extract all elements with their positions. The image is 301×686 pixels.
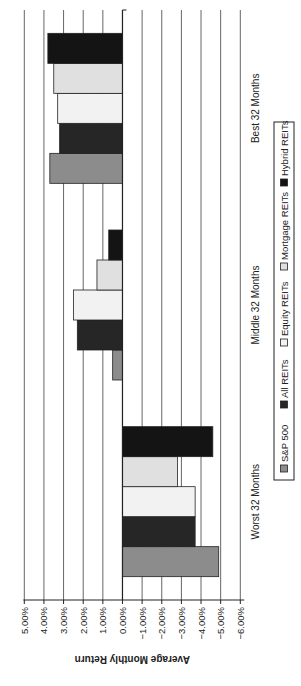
bar-all-reits-2 [60,123,123,153]
bar-s-p-500-0 [122,547,218,577]
bar-equity-reits-0 [122,487,195,517]
y-tick-label: 0.00% [117,606,128,633]
y-axis-title: Average Monthly Return [75,654,190,665]
bar-all-reits-1 [77,320,122,350]
bar-mortgage-reits-0 [122,457,177,487]
bar-hybrid-reits-2 [48,33,123,63]
bar-mortgage-reits-1 [97,260,123,290]
y-tick-label: −2.00% [156,606,167,639]
bar-hybrid-reits-0 [122,427,212,457]
y-tick-label: 2.00% [78,606,89,633]
bar-all-reits-0 [122,517,195,547]
legend-label: Hybrid REITs [279,120,290,176]
bar-hybrid-reits-1 [109,230,123,260]
category-label: Worst 32 Months [250,464,261,539]
chart-stage: 5.00%4.00%3.00%2.00%1.00%0.00%−1.00%−2.0… [0,0,301,686]
legend-swatch [281,465,288,472]
y-tick-label: −6.00% [235,606,246,639]
y-tick-label: −5.00% [215,606,226,639]
category-label: Best 32 Months [250,74,261,143]
y-tick-label: −4.00% [196,606,207,639]
bar-s-p-500-1 [113,350,123,380]
y-tick-label: 4.00% [38,606,49,633]
bar-equity-reits-1 [73,290,122,320]
legend-swatch [281,179,288,186]
legend-label: All REITs [279,359,290,398]
legend-label: Equity REITs [279,281,290,336]
y-tick-label: 5.00% [19,606,30,633]
y-tick-label: −3.00% [176,606,187,639]
bar-s-p-500-2 [50,153,123,183]
bars [48,33,219,576]
y-tick-label: −1.00% [137,606,148,639]
legend: S&P 500All REITsEquity REITsMortgage REI… [274,120,294,480]
category-label: Middle 32 Months [250,266,261,345]
y-tick-label: 1.00% [97,606,108,633]
y-tick-label: 3.00% [58,606,69,633]
bar-mortgage-reits-2 [54,63,123,93]
category-labels: Worst 32 MonthsMiddle 32 MonthsBest 32 M… [250,74,261,540]
bar-equity-reits-2 [58,93,123,123]
legend-swatch [281,263,288,270]
legend-label: Mortgage REITs [279,192,290,260]
legend-label: S&P 500 [279,425,290,462]
legend-swatch [281,401,288,408]
legend-swatch [281,339,288,346]
bar-chart: 5.00%4.00%3.00%2.00%1.00%0.00%−1.00%−2.0… [0,0,301,686]
y-tick-labels: 5.00%4.00%3.00%2.00%1.00%0.00%−1.00%−2.0… [19,606,246,639]
